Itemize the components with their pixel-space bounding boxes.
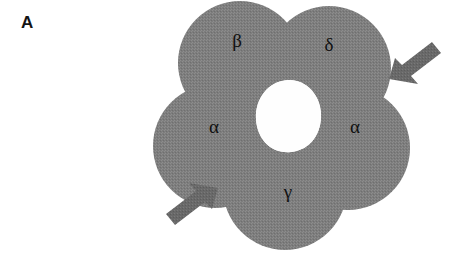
subunit-label-gamma: γ bbox=[283, 181, 292, 202]
figure-panel-a: A bbox=[0, 0, 466, 280]
subunit-label-alpha-right: α bbox=[350, 116, 360, 137]
arrow-top-right-icon bbox=[389, 42, 441, 84]
receptor-diagram: β δ α γ α bbox=[0, 0, 466, 280]
subunit-label-beta: β bbox=[232, 30, 242, 51]
central-pore bbox=[256, 80, 321, 152]
subunit-label-alpha-left: α bbox=[209, 116, 219, 137]
subunit-label-delta: δ bbox=[325, 34, 334, 55]
